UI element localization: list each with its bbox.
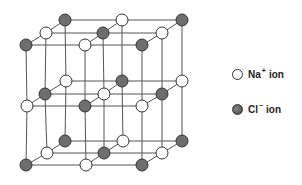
na-ion-atom-icon (156, 147, 168, 159)
bond-line (103, 33, 104, 94)
na-ion-icon (232, 69, 243, 80)
bond-line (122, 81, 123, 141)
cl-ion-atom-icon (156, 88, 168, 100)
na-ion-atom-icon (116, 14, 128, 26)
cl-ion-atom-icon (20, 39, 32, 51)
bond-line (45, 33, 46, 94)
na-ion-atom-icon (156, 27, 168, 39)
cl-ion-atom-icon (59, 14, 71, 26)
bond-line (85, 106, 86, 165)
na-ion-atom-icon (80, 159, 92, 171)
lattice-atoms (20, 14, 188, 171)
cl-ion-atom-icon (20, 159, 32, 171)
bond-line (65, 81, 66, 141)
cl-ion-atom-icon (116, 75, 128, 87)
na-ion-atom-icon (176, 75, 188, 87)
na-ion-atom-icon (136, 100, 148, 112)
cl-ion-atom-icon (97, 27, 109, 39)
legend-cl: Cl−ion (232, 102, 281, 116)
cl-ion-atom-icon (176, 14, 188, 26)
legend-cl-label: Cl−ion (248, 103, 281, 115)
cl-ion-icon (232, 104, 243, 115)
cl-ion-atom-icon (136, 159, 148, 171)
na-ion-atom-icon (98, 88, 110, 100)
cl-ion-atom-icon (59, 135, 71, 147)
bond-line (45, 94, 47, 153)
legend-na-label: Na+ion (248, 68, 284, 80)
cl-ion-atom-icon (98, 147, 110, 159)
na-ion-atom-icon (21, 100, 33, 112)
nacl-lattice-diagram (0, 0, 302, 185)
legend-na: Na+ion (232, 67, 284, 81)
cl-ion-atom-icon (79, 100, 91, 112)
na-ion-atom-icon (40, 27, 52, 39)
na-ion-atom-icon (117, 135, 129, 147)
bond-line (26, 106, 27, 165)
cl-ion-atom-icon (136, 39, 148, 51)
cl-ion-atom-icon (176, 135, 188, 147)
cl-ion-atom-icon (39, 88, 51, 100)
na-ion-atom-icon (41, 147, 53, 159)
na-ion-atom-icon (60, 75, 72, 87)
bond-line (65, 20, 66, 81)
na-ion-atom-icon (79, 39, 91, 51)
bond-line (26, 45, 27, 106)
